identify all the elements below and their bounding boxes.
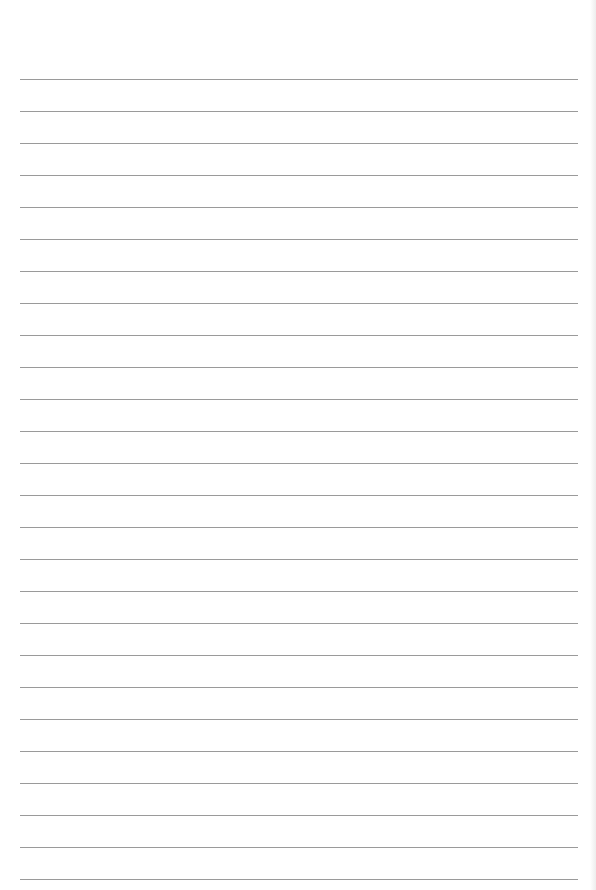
ruled-line bbox=[20, 463, 578, 464]
ruled-line bbox=[20, 655, 578, 656]
ruled-line bbox=[20, 335, 578, 336]
ruled-line bbox=[20, 431, 578, 432]
ruled-line bbox=[20, 687, 578, 688]
ruled-line bbox=[20, 207, 578, 208]
ruled-line bbox=[20, 527, 578, 528]
ruled-line bbox=[20, 111, 578, 112]
ruled-line bbox=[20, 303, 578, 304]
ruled-line bbox=[20, 591, 578, 592]
ruled-line bbox=[20, 175, 578, 176]
ruled-line bbox=[20, 815, 578, 816]
ruled-line bbox=[20, 847, 578, 848]
ruled-line bbox=[20, 79, 578, 80]
ruled-line bbox=[20, 367, 578, 368]
ruled-line bbox=[20, 143, 578, 144]
ruled-line bbox=[20, 879, 578, 880]
ruled-line bbox=[20, 399, 578, 400]
ruled-line bbox=[20, 271, 578, 272]
ruled-line bbox=[20, 239, 578, 240]
ruled-line bbox=[20, 495, 578, 496]
ruled-line bbox=[20, 559, 578, 560]
page-edge-shade bbox=[590, 0, 596, 890]
ruled-line bbox=[20, 719, 578, 720]
ruled-line bbox=[20, 623, 578, 624]
ruled-line bbox=[20, 751, 578, 752]
ruled-line bbox=[20, 783, 578, 784]
